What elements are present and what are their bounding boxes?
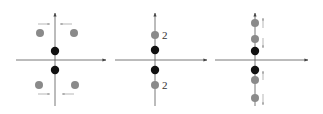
multiplicity-label-top: 2 — [162, 29, 168, 41]
panel-1 — [16, 13, 106, 106]
gray-dot — [251, 94, 259, 102]
panel-2: 2 2 — [115, 13, 207, 106]
panel-3 — [215, 13, 308, 106]
gray-dot — [251, 76, 259, 84]
gray-dot — [251, 19, 259, 27]
black-dot — [251, 66, 259, 74]
gray-dot — [36, 29, 44, 37]
black-dot — [151, 66, 159, 74]
gray-dot — [151, 81, 159, 89]
black-dot — [251, 47, 259, 55]
gray-dot — [71, 81, 79, 89]
gray-dot — [151, 31, 159, 39]
black-dot — [51, 66, 59, 74]
gray-dot — [251, 35, 259, 43]
black-dot — [51, 47, 59, 55]
multiplicity-label-bottom: 2 — [162, 79, 168, 91]
diagram: 2 2 — [0, 0, 323, 114]
black-dot — [151, 46, 159, 54]
gray-dot — [70, 29, 78, 37]
gray-dot — [35, 81, 43, 89]
